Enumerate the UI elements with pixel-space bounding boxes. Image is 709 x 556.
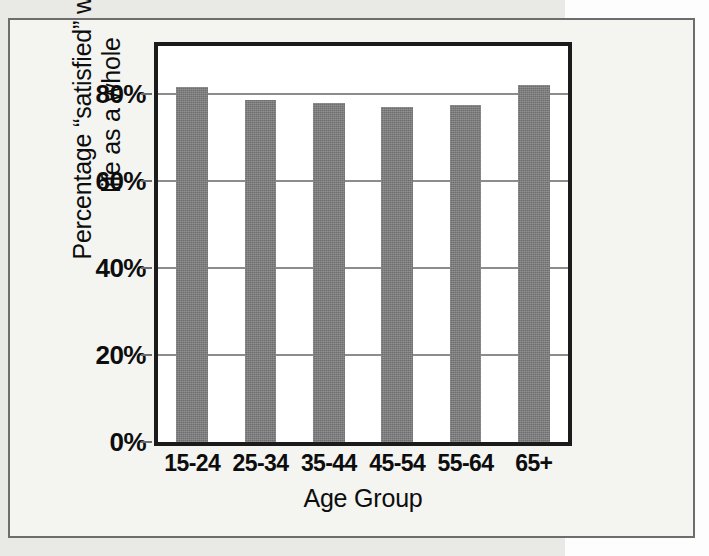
bar-15-24: [176, 87, 207, 442]
y-tick-mark-60pct: [141, 180, 152, 182]
plot-area: [154, 42, 572, 446]
gridline-80: [158, 93, 568, 95]
bar-25-34: [245, 100, 276, 442]
y-tick-mark-80pct: [141, 93, 152, 95]
x-axis-title: Age Group: [154, 486, 572, 511]
y-tick-label-60pct: 60%: [95, 168, 146, 194]
y-tick-mark-20pct: [141, 354, 152, 356]
x-tick-label-25-34: 25-34: [226, 452, 294, 475]
bar-45-54: [381, 107, 412, 442]
x-tick-label-65+: 65+: [500, 452, 568, 475]
y-tick-label-40pct: 40%: [95, 255, 146, 281]
x-axis-tick-labels: 15-2425-3435-4445-5455-6465+: [154, 452, 572, 486]
y-axis-tick-labels: 0%20%40%60%80%: [62, 42, 146, 446]
x-tick-label-45-54: 45-54: [363, 452, 431, 475]
gridline-20: [158, 354, 568, 356]
gridline-60: [158, 180, 568, 182]
chart-figure: Percentage “satisfied” with life as a wh…: [8, 18, 695, 538]
x-tick-label-55-64: 55-64: [431, 452, 499, 475]
y-tick-label-80pct: 80%: [95, 81, 146, 107]
y-tick-mark-40pct: [141, 267, 152, 269]
y-tick-mark-0pct: [141, 441, 152, 443]
x-tick-label-15-24: 15-24: [158, 452, 226, 475]
y-tick-label-20pct: 20%: [95, 342, 146, 368]
bar-35-44: [313, 103, 344, 442]
x-tick-label-35-44: 35-44: [295, 452, 363, 475]
page-background: Percentage “satisfied” with life as a wh…: [0, 0, 709, 556]
gridline-40: [158, 267, 568, 269]
y-axis-tick-marks: [141, 42, 154, 446]
bar-65+: [518, 85, 549, 442]
bar-55-64: [450, 105, 481, 442]
plot-inner: [158, 46, 568, 442]
